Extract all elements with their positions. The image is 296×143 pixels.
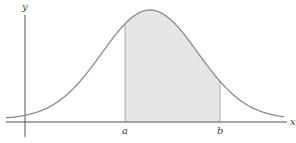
- tick-label-b: b: [217, 125, 223, 136]
- x-axis-label: x: [290, 116, 296, 127]
- y-axis-label: y: [21, 1, 28, 12]
- tick-label-a: a: [122, 125, 128, 136]
- shaded-area-a-to-b: [125, 10, 220, 122]
- normal-curve-chart: y x a b: [0, 0, 296, 143]
